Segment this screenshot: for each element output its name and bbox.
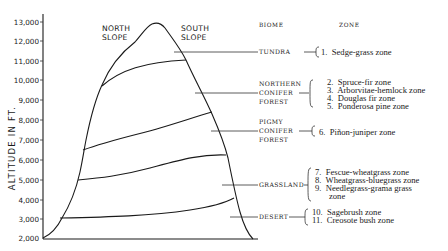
tick-4000: 4,000 xyxy=(18,196,39,205)
tick-9000: 9,000 xyxy=(18,96,39,105)
y-tick-labels: 13,000 12,000 11,000 10,000 9,000 8,000 … xyxy=(14,18,40,243)
brace-pigmy-conifer xyxy=(312,126,315,136)
biome-northern-conifer-3: FOREST xyxy=(259,98,289,105)
zone-11: 11. Creosote bush zone xyxy=(312,215,394,225)
biome-grassland: GRASSLAND xyxy=(259,181,304,188)
north-slope-label-1: NORTH xyxy=(102,24,130,33)
biome-pigmy-conifer-1: PIGMY xyxy=(259,118,283,125)
brace-grassland xyxy=(308,168,311,201)
biome-header: BIOME xyxy=(259,22,283,28)
biome-northern-conifer-2: CONIFER xyxy=(259,89,293,96)
south-slope-label-2: SLOPE xyxy=(181,33,207,42)
biome-pigmy-conifer-3: FOREST xyxy=(259,136,289,143)
zone-9-cont: zone xyxy=(329,191,345,201)
biome-tundra: TUNDRA xyxy=(259,48,290,55)
vegetation-zone-diagram: 13,000 12,000 11,000 10,000 9,000 8,000 … xyxy=(0,0,448,251)
brace-tundra xyxy=(316,47,319,57)
tick-2000: 2,000 xyxy=(18,234,39,243)
boundary-pigmy-conifer xyxy=(78,155,226,180)
tick-3000: 3,000 xyxy=(18,215,39,224)
tick-11000: 11,000 xyxy=(14,57,40,66)
tick-6000: 6,000 xyxy=(18,156,39,165)
zone-5: 5. Ponderosa pine zone xyxy=(327,101,409,111)
zone-1: 1. Sedge-grass zone xyxy=(321,47,392,57)
boundary-grassland-desert xyxy=(60,198,234,218)
biome-desert: DESERT xyxy=(259,213,289,220)
y-axis-title: ALTITUDE IN FT. xyxy=(7,106,17,190)
tick-8000: 8,000 xyxy=(18,116,39,125)
brace-desert xyxy=(305,209,308,225)
tick-13000: 13,000 xyxy=(14,18,40,27)
tick-12000: 12,000 xyxy=(14,37,40,46)
zone-6: 6. Piñon-juniper zone xyxy=(319,127,396,137)
north-slope-label-2: SLOPE xyxy=(102,33,128,42)
tick-7000: 7,000 xyxy=(18,136,39,145)
biome-pigmy-conifer-2: CONIFER xyxy=(259,127,293,134)
boundary-northern-conifer xyxy=(83,112,212,150)
boundary-tundra xyxy=(102,60,186,86)
tick-10000: 10,000 xyxy=(14,76,40,85)
biome-northern-conifer-1: NORTHERN xyxy=(259,80,302,87)
south-slope-label-1: SOUTH xyxy=(181,24,209,33)
tick-5000: 5,000 xyxy=(18,176,39,185)
brace-northern-conifer xyxy=(310,80,313,107)
zone-header: ZONE xyxy=(339,22,359,28)
